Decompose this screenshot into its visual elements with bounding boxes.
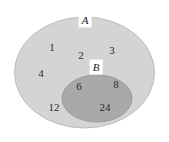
element-3: 3 xyxy=(109,45,115,56)
element-8: 8 xyxy=(113,79,119,90)
venn-diagram-canvas: 1 2 3 4 12 6 8 24 A B xyxy=(0,0,169,142)
set-a-label: A xyxy=(79,13,92,28)
element-6: 6 xyxy=(76,81,82,92)
element-12: 12 xyxy=(49,102,60,113)
element-1: 1 xyxy=(49,42,55,53)
element-4: 4 xyxy=(38,68,44,79)
set-b-ellipse xyxy=(62,75,132,122)
element-24: 24 xyxy=(100,102,111,113)
set-b-label: B xyxy=(90,60,103,75)
element-2: 2 xyxy=(78,50,84,61)
